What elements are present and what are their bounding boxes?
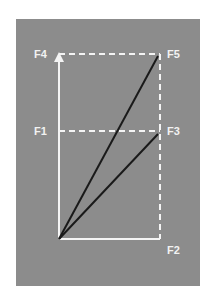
force-diagram: F4 F5 F1 F3 F2 (0, 0, 217, 299)
label-f3: F3 (167, 125, 180, 137)
label-f5: F5 (167, 48, 180, 60)
label-f1: F1 (34, 125, 47, 137)
label-f4: F4 (34, 48, 48, 60)
label-f2: F2 (167, 244, 180, 256)
vector-f3 (59, 134, 158, 239)
vector-f5 (59, 56, 158, 239)
